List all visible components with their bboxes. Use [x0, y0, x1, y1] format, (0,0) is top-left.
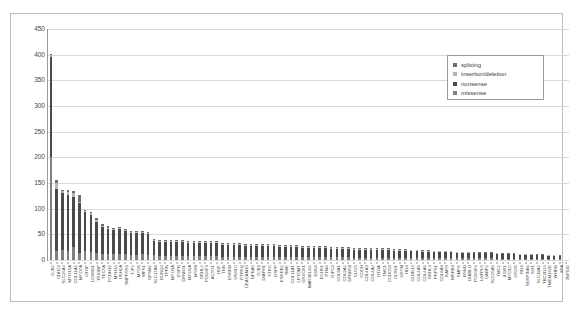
- x-axis-tick-mark: [508, 262, 509, 264]
- bar-segment-nonsense: [250, 246, 253, 257]
- x-axis-tick-mark: [359, 262, 360, 264]
- bar-segment-missense: [78, 253, 81, 260]
- bar-segment-nonsense: [55, 189, 58, 251]
- bar-stack: [107, 226, 110, 260]
- bar-stack: [95, 218, 98, 260]
- bar-segment-nonsense: [295, 247, 298, 257]
- bar-segment-missense: [387, 258, 390, 260]
- bar-stack: [50, 54, 53, 260]
- x-axis-tick-mark: [273, 262, 274, 264]
- x-axis-tick-mark: [256, 262, 257, 264]
- bar-segment-missense: [541, 259, 544, 260]
- bar-segment-missense: [490, 258, 493, 260]
- bar-stack: [147, 232, 150, 260]
- bar-stack: [187, 241, 190, 260]
- bar-segment-missense: [513, 259, 516, 260]
- bar-stack: [336, 247, 339, 260]
- x-axis-tick-mark: [302, 262, 303, 264]
- legend-item[interactable]: splicing: [453, 60, 538, 70]
- bar-segment-missense: [72, 247, 75, 260]
- bar-segment-missense: [478, 258, 481, 260]
- x-axis-tick-mark: [159, 262, 160, 264]
- bar-segment-missense: [364, 258, 367, 260]
- bar-segment-missense: [61, 250, 64, 260]
- bar-segment-missense: [267, 257, 270, 260]
- bar-stack: [387, 248, 390, 260]
- bar-stack: [164, 240, 167, 260]
- bar-segment-missense: [95, 253, 98, 260]
- bar-stack: [261, 244, 264, 260]
- bar-segment-nonsense: [84, 212, 87, 251]
- bar-segment-nonsense: [353, 250, 356, 258]
- bar-segment-missense: [393, 258, 396, 260]
- bar-segment-missense: [153, 255, 156, 260]
- bar-segment-nonsense: [330, 249, 333, 258]
- x-axis-tick-mark: [279, 262, 280, 264]
- x-axis-tick-mark: [422, 262, 423, 264]
- x-axis-tick-mark: [245, 262, 246, 264]
- bar-stack: [404, 249, 407, 260]
- bar-segment-missense: [124, 254, 127, 260]
- bar-segment-missense: [67, 251, 70, 260]
- chart-frame: 450400350300250200150100500 GJB2CDH23SLC…: [10, 13, 563, 302]
- x-axis-tick-mark: [199, 262, 200, 264]
- x-axis-tick-mark: [331, 262, 332, 264]
- bar-segment-nonsense: [130, 233, 133, 255]
- legend-item[interactable]: nonsense: [453, 79, 538, 89]
- bar-segment-nonsense: [153, 241, 156, 255]
- bar-segment-missense: [559, 259, 562, 260]
- x-axis-tick-mark: [251, 262, 252, 264]
- bar-segment-missense: [175, 256, 178, 260]
- bar-segment-missense: [484, 258, 487, 260]
- x-axis-tick-mark: [90, 262, 91, 264]
- bar-stack: [215, 241, 218, 260]
- bar-stack: [84, 210, 87, 260]
- bar-stack: [130, 231, 133, 260]
- bar-segment-nonsense: [204, 243, 207, 256]
- x-axis-tick-mark: [536, 262, 537, 264]
- bar-stack: [416, 250, 419, 260]
- bar-stack: [376, 248, 379, 260]
- bar-stack: [456, 252, 459, 260]
- x-axis-tick-mark: [193, 262, 194, 264]
- bar-stack: [284, 245, 287, 260]
- bar-segment-missense: [416, 258, 419, 260]
- bar-segment-missense: [193, 256, 196, 260]
- x-axis-tick-mark: [50, 262, 51, 264]
- bar-segment-nonsense: [227, 245, 230, 257]
- bar-segment-missense: [307, 257, 310, 260]
- y-axis-tick-label: 450: [15, 26, 45, 33]
- x-axis-tick-mark: [165, 262, 166, 264]
- x-axis-tick-mark: [348, 262, 349, 264]
- x-axis-tick-mark: [319, 262, 320, 264]
- bar-segment-missense: [244, 257, 247, 260]
- bar-segment-missense: [467, 258, 470, 260]
- bar-segment-nonsense: [72, 197, 75, 246]
- x-axis-tick-mark: [85, 262, 86, 264]
- bar-segment-missense: [261, 257, 264, 260]
- legend-item-label: missense: [461, 90, 486, 96]
- bar-stack: [273, 244, 276, 260]
- bar-segment-nonsense: [50, 57, 53, 157]
- x-axis-tick-mark: [371, 262, 372, 264]
- bar-segment-missense: [130, 255, 133, 260]
- bar-segment-missense: [204, 256, 207, 260]
- x-axis-tick-mark: [468, 262, 469, 264]
- x-axis-tick-mark: [416, 262, 417, 264]
- x-axis-tick-mark: [479, 262, 480, 264]
- bar-segment-nonsense: [175, 242, 178, 256]
- legend-item[interactable]: insertion/deletion: [453, 70, 538, 80]
- x-axis-tick-mark: [182, 262, 183, 264]
- bar-segment-missense: [198, 256, 201, 260]
- bar-segment-nonsense: [358, 250, 361, 258]
- x-axis-tick-mark: [153, 262, 154, 264]
- bar-column[interactable]: [563, 29, 569, 260]
- x-axis-tick-mark: [96, 262, 97, 264]
- bar-segment-nonsense: [210, 243, 213, 256]
- bar-segment-nonsense: [181, 242, 184, 256]
- legend-item[interactable]: missense: [453, 89, 538, 99]
- bar-segment-missense: [318, 257, 321, 260]
- bar-segment-missense: [553, 259, 556, 260]
- bar-segment-missense: [547, 259, 550, 260]
- chart-legend: splicinginsertion/deletionnonsensemissen…: [447, 55, 544, 100]
